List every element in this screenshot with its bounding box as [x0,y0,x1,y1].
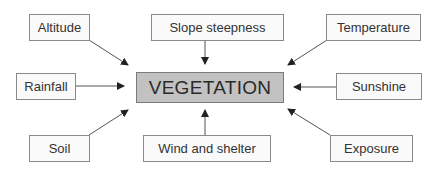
factor-slope-steepness: Slope steepness [151,14,284,41]
arrow-exposure [288,109,330,135]
factor-exposure: Exposure [330,135,413,162]
factor-altitude: Altitude [29,14,90,41]
factor-temperature: Temperature [326,14,421,41]
factor-sunshine: Sunshine [336,73,422,100]
arrow-temperature [288,40,327,65]
arrow-altitude [89,40,128,65]
factor-wind-and-shelter: Wind and shelter [143,135,271,162]
arrow-soil [89,110,128,135]
factor-soil: Soil [29,135,90,162]
center-node-vegetation: VEGETATION [136,72,284,103]
factor-rainfall: Rainfall [16,73,76,100]
